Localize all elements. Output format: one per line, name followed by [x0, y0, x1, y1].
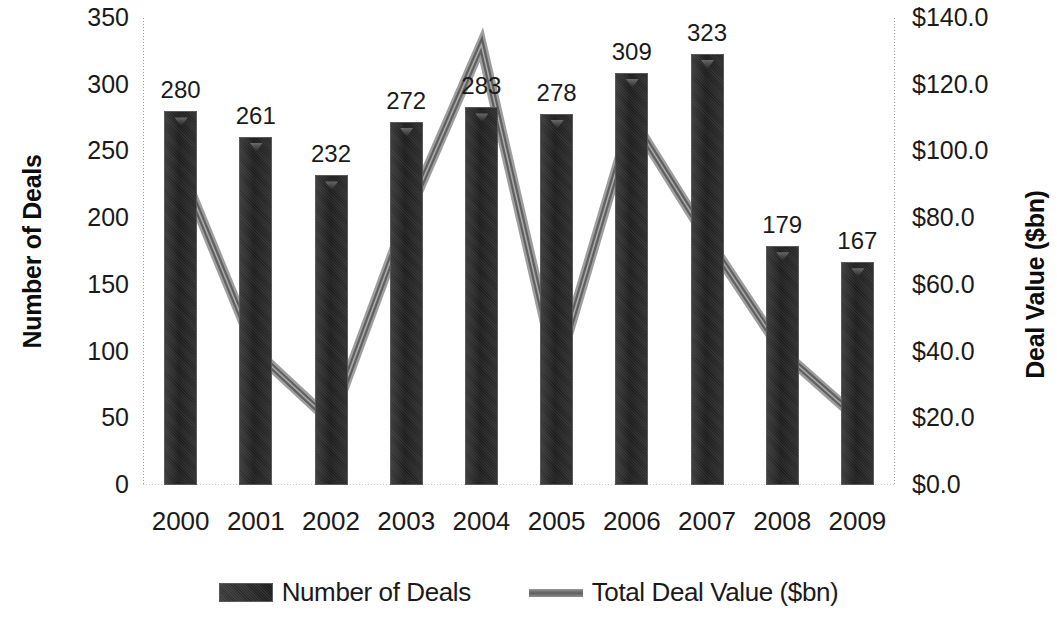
- y-axis-right-tick-label: $100.0: [912, 138, 1042, 163]
- y-axis-left-tick-label: 300: [24, 72, 129, 97]
- bar-data-label: 272: [371, 89, 441, 113]
- bar: [390, 122, 423, 485]
- legend-bar-swatch-icon: [219, 583, 273, 602]
- bar: [841, 262, 874, 485]
- x-axis-label-2001: 2001: [216, 508, 296, 534]
- legend-item[interactable]: Total Deal Value ($bn): [529, 577, 839, 608]
- x-axis-label-2002: 2002: [291, 508, 371, 534]
- bar-data-label: 232: [296, 142, 366, 166]
- x-axis-label-2000: 2000: [141, 508, 221, 534]
- bar: [691, 54, 724, 485]
- y-axis-right-tick-label: $120.0: [912, 72, 1042, 97]
- legend-item-label: Number of Deals: [282, 577, 471, 608]
- bar-data-label: 280: [146, 78, 216, 102]
- y-axis-left-tick-label: 0: [24, 472, 129, 497]
- y-axis-left-tick-label: 50: [24, 405, 129, 430]
- legend-item-label: Total Deal Value ($bn): [592, 577, 839, 608]
- bar: [315, 175, 348, 485]
- x-axis-label-2006: 2006: [592, 508, 672, 534]
- x-axis-label-2008: 2008: [742, 508, 822, 534]
- bar-data-label: 179: [747, 213, 817, 237]
- bar-data-label: 309: [597, 40, 667, 64]
- y-axis-left-tick-label: 250: [24, 138, 129, 163]
- y-axis-left-tick-label: 100: [24, 339, 129, 364]
- y-axis-left-tick-label: 350: [24, 5, 129, 30]
- x-axis-label-2005: 2005: [517, 508, 597, 534]
- y-axis-right-tick-label: $40.0: [912, 339, 1042, 364]
- bar: [615, 73, 648, 485]
- legend-item[interactable]: Number of Deals: [219, 577, 471, 608]
- bar: [766, 246, 799, 485]
- plot-area: 280261232272283278309323179167: [143, 18, 895, 485]
- bar: [239, 137, 272, 485]
- bar-data-label: 283: [446, 74, 516, 98]
- bar: [164, 111, 197, 485]
- y-axis-right-tick-label: $20.0: [912, 405, 1042, 430]
- legend-line-swatch-icon: [529, 589, 583, 597]
- y-axis-right-tick-label: $60.0: [912, 272, 1042, 297]
- bar-data-label: 323: [672, 21, 742, 45]
- x-axis-label-2004: 2004: [441, 508, 521, 534]
- bar-data-label: 167: [822, 229, 892, 253]
- x-axis-label-2009: 2009: [817, 508, 897, 534]
- x-axis-label-2003: 2003: [366, 508, 446, 534]
- bar: [465, 107, 498, 485]
- x-axis-label-2007: 2007: [667, 508, 747, 534]
- y-axis-left-tick-label: 150: [24, 272, 129, 297]
- y-axis-right-tick-label: $140.0: [912, 5, 1042, 30]
- chart-legend: Number of DealsTotal Deal Value ($bn): [0, 577, 1057, 608]
- bar: [540, 114, 573, 485]
- y-axis-left-tick-label: 200: [24, 205, 129, 230]
- chart-container: Number of Deals Deal Value ($bn) 0501001…: [0, 0, 1057, 618]
- bar-data-label: 261: [221, 104, 291, 128]
- y-axis-right-tick-label: $0.0: [912, 472, 1042, 497]
- bar-data-label: 278: [522, 81, 592, 105]
- y-axis-right-tick-label: $80.0: [912, 205, 1042, 230]
